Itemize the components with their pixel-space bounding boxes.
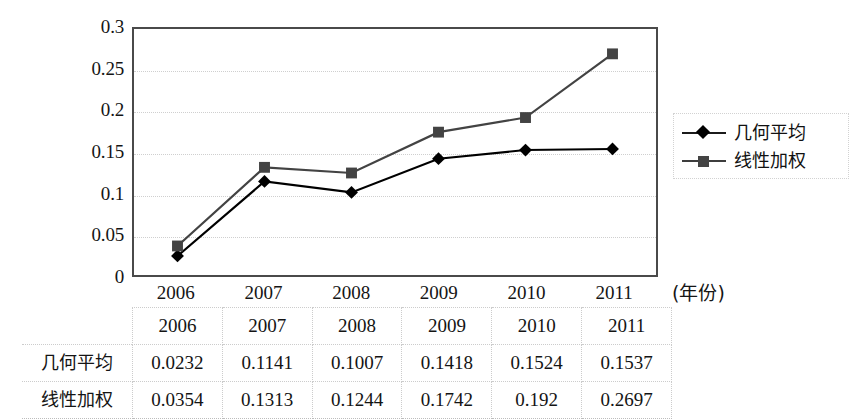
- table-cell: 0.1244: [312, 382, 402, 419]
- table-cell: 0.1524: [492, 345, 582, 382]
- table-head: 200620072008200920102011: [22, 308, 672, 345]
- table-column-header: 2008: [312, 308, 402, 345]
- x-axis: 200620072008200920102011: [132, 281, 658, 307]
- table-cell: 0.1141: [222, 345, 312, 382]
- table-row: 几何平均0.02320.11410.10070.14180.15240.1537: [22, 345, 672, 382]
- data-point-square[interactable]: [520, 112, 531, 123]
- x-axis-tick-label: 2009: [395, 281, 483, 305]
- x-axis-tick-label: 2006: [132, 281, 220, 305]
- table-row-header: 几何平均: [22, 345, 133, 382]
- series-line: [178, 149, 613, 256]
- y-axis-tick-label: 0.15: [62, 142, 124, 161]
- table-column-header: 2010: [492, 308, 582, 345]
- y-axis-tick-label: 0.2: [62, 100, 124, 119]
- table-column-header: 2009: [402, 308, 492, 345]
- y-axis-tick-label: 0.25: [62, 59, 124, 78]
- diamond-marker-icon: [682, 124, 726, 142]
- table-cell: 0.0232: [133, 345, 223, 382]
- table-cell: 0.0354: [133, 382, 223, 419]
- table-row-header: 线性加权: [22, 382, 133, 419]
- data-point-square[interactable]: [172, 241, 183, 252]
- table-cell: 0.1742: [402, 382, 492, 419]
- data-point-square[interactable]: [433, 127, 444, 138]
- table-body: 几何平均0.02320.11410.10070.14180.15240.1537…: [22, 345, 672, 419]
- table-row: 线性加权0.03540.13130.12440.17420.1920.2697: [22, 382, 672, 419]
- square-marker-icon: [682, 152, 726, 170]
- plot-area: [132, 27, 658, 277]
- legend-label-linear-weighted: 线性加权: [726, 151, 806, 171]
- x-axis-tick-label: 2011: [570, 281, 658, 305]
- y-axis: 0.30.250.20.150.10.050: [62, 18, 124, 286]
- table-cell: 0.1418: [402, 345, 492, 382]
- table-cell: 0.1007: [312, 345, 402, 382]
- x-axis-unit-label: (年份): [672, 281, 725, 305]
- table-column-header: 2011: [582, 308, 672, 345]
- data-point-diamond[interactable]: [606, 143, 619, 156]
- legend-label-geometric-mean: 几何平均: [726, 123, 806, 143]
- y-axis-tick-label: 0: [62, 267, 124, 286]
- data-point-square[interactable]: [259, 162, 270, 173]
- y-axis-tick-label: 0.1: [62, 184, 124, 203]
- data-point-diamond[interactable]: [432, 152, 445, 165]
- data-point-square[interactable]: [346, 168, 357, 179]
- data-point-diamond[interactable]: [519, 144, 532, 157]
- x-axis-tick-label: 2010: [483, 281, 571, 305]
- table-column-header: 2007: [222, 308, 312, 345]
- table-column-header: 2006: [133, 308, 223, 345]
- data-point-square[interactable]: [607, 48, 618, 59]
- chart-legend: 几何平均 线性加权: [673, 113, 849, 179]
- table-corner-cell: [22, 308, 133, 345]
- table-cell: 0.1313: [222, 382, 312, 419]
- table-cell: 0.192: [492, 382, 582, 419]
- y-axis-tick-label: 0.05: [62, 225, 124, 244]
- legend-item-geometric-mean[interactable]: 几何平均: [674, 119, 848, 147]
- plot-inner: [134, 29, 656, 275]
- table-cell: 0.2697: [582, 382, 672, 419]
- x-axis-tick-label: 2008: [307, 281, 395, 305]
- series-graphics: [134, 29, 656, 275]
- table-cell: 0.1537: [582, 345, 672, 382]
- data-point-diamond[interactable]: [345, 186, 358, 199]
- y-axis-tick-label: 0.3: [62, 17, 124, 36]
- table-header-row: 200620072008200920102011: [22, 308, 672, 345]
- legend-item-linear-weighted[interactable]: 线性加权: [674, 147, 848, 175]
- x-axis-tick-label: 2007: [220, 281, 308, 305]
- data-table: 200620072008200920102011 几何平均0.02320.114…: [22, 307, 672, 419]
